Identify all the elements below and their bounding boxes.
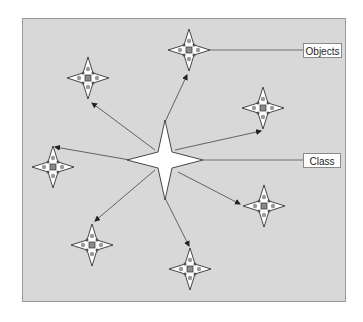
arrow-to-lower-right xyxy=(178,172,240,204)
arrow-to-lower-left xyxy=(95,170,155,221)
object-star-lower-left-icon xyxy=(71,224,113,266)
arrow-to-bottom xyxy=(165,198,189,246)
arrow-to-upper-right xyxy=(175,131,261,150)
arrow-to-top xyxy=(165,75,187,122)
object-star-lower-right-icon xyxy=(243,185,285,227)
objects-label: Objects xyxy=(303,43,342,58)
object-star-upper-right-icon xyxy=(242,87,284,129)
class-star-icon xyxy=(127,120,203,200)
arrow-to-upper-left xyxy=(92,103,155,150)
object-star-top-icon xyxy=(168,29,210,71)
object-star-left-icon xyxy=(32,146,74,188)
object-star-upper-left-icon xyxy=(67,57,109,99)
arrow-to-left xyxy=(55,147,130,160)
class-label: Class xyxy=(303,153,341,168)
object-star-bottom-icon xyxy=(169,248,211,290)
